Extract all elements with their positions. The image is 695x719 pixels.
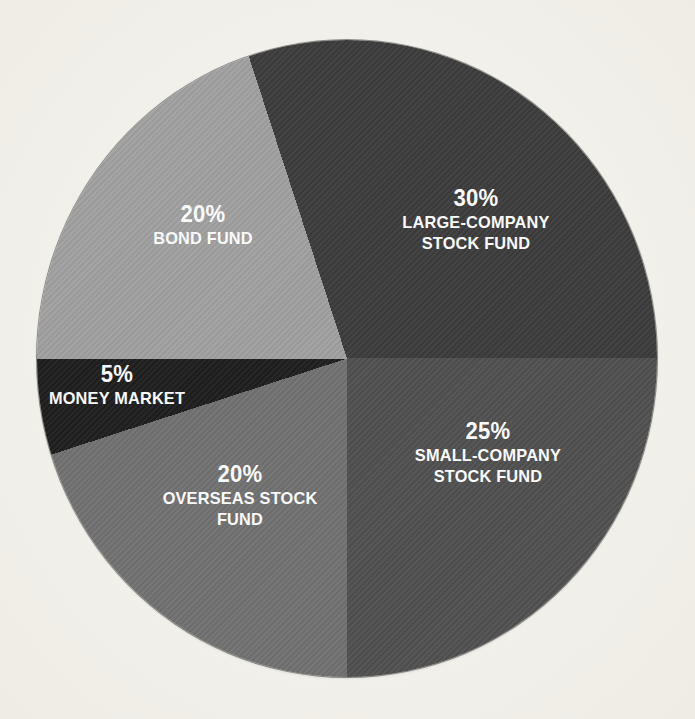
slice-percentage: 5% bbox=[49, 361, 185, 388]
slice-name: MONEY MARKET bbox=[49, 388, 185, 409]
pie-chart: 30%LARGE-COMPANY STOCK FUND25%SMALL-COMP… bbox=[37, 40, 657, 677]
slice-name: BOND FUND bbox=[153, 228, 253, 249]
slice-label-money-market: 5%MONEY MARKET bbox=[49, 361, 185, 409]
slice-label-small-company-stock-fund: 25%SMALL-COMPANY STOCK FUND bbox=[415, 418, 561, 487]
slice-percentage: 20% bbox=[153, 201, 253, 228]
slice-name: OVERSEAS STOCK FUND bbox=[163, 488, 318, 530]
scanned-page: 30%LARGE-COMPANY STOCK FUND25%SMALL-COMP… bbox=[0, 0, 695, 719]
slice-name: SMALL-COMPANY STOCK FUND bbox=[415, 445, 561, 487]
slice-label-large-company-stock-fund: 30%LARGE-COMPANY STOCK FUND bbox=[402, 185, 549, 254]
slice-percentage: 20% bbox=[163, 461, 318, 488]
slice-label-overseas-stock-fund: 20%OVERSEAS STOCK FUND bbox=[163, 461, 318, 530]
slice-name: LARGE-COMPANY STOCK FUND bbox=[402, 212, 549, 254]
slice-percentage: 30% bbox=[402, 185, 549, 212]
slice-label-bond-fund: 20%BOND FUND bbox=[153, 201, 253, 249]
slice-percentage: 25% bbox=[415, 418, 561, 445]
